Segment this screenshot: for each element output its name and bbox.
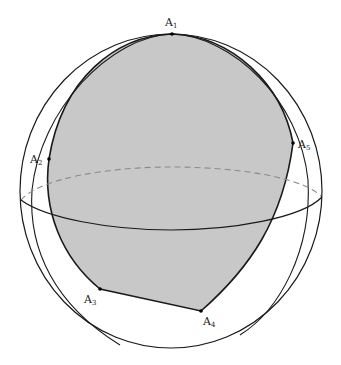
label-a3: A3 bbox=[83, 293, 96, 307]
vertex-a1 bbox=[170, 32, 174, 36]
vertex-a3 bbox=[98, 287, 102, 291]
vertex-a2 bbox=[47, 157, 51, 161]
label-a4: A4 bbox=[202, 315, 216, 329]
spherical-polygon bbox=[48, 34, 293, 311]
vertex-a5 bbox=[291, 141, 295, 145]
vertex-a4 bbox=[199, 309, 203, 313]
sphere-diagram: A1 A2 A3 A4 A5 bbox=[0, 0, 341, 365]
label-a1: A1 bbox=[164, 16, 177, 30]
label-a5: A5 bbox=[297, 138, 310, 152]
label-a2: A2 bbox=[29, 153, 42, 167]
